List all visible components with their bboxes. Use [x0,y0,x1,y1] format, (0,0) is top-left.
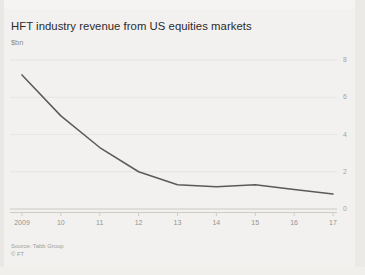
x-axis-ticks-group [22,213,333,217]
y-axis-tick-label: 2 [343,168,347,175]
x-axis-tick-label: 2009 [14,219,30,226]
copyright-note: © FT [11,250,64,259]
x-axis-tick-label: 16 [290,219,298,226]
x-axis-tick-label: 17 [329,219,337,226]
chart-footer: Source: Tabb Group © FT [11,242,64,259]
x-axis-tick-label: 15 [251,219,259,226]
x-axis-tick-label: 10 [57,219,65,226]
y-axis-tick-label: 8 [343,56,347,63]
y-axis-tick-label: 4 [343,131,347,138]
source-note: Source: Tabb Group [11,242,64,251]
x-axis-tick-label: 14 [212,219,220,226]
chart-figure: HFT industry revenue from US equities ma… [0,0,365,275]
x-axis-tick-label: 11 [96,219,103,226]
y-axis-tick-label: 6 [343,93,347,100]
line-chart-plot [0,0,365,275]
gridlines-group [10,60,337,209]
x-axis-tick-label: 13 [174,219,182,226]
x-axis-tick-label: 12 [135,219,143,226]
y-axis-tick-label: 0 [343,205,347,212]
